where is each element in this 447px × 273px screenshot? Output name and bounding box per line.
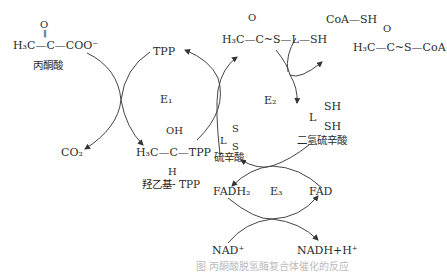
lipoamide-label: 硫辛酸: [214, 152, 244, 163]
acetyl-coa-structure: H₃C—C~S—CoA: [353, 42, 446, 53]
hydroxyethyl-tpp-label: 羟乙基- TPP: [142, 179, 200, 190]
nadh-label: NADH+H⁺: [297, 245, 358, 256]
pyruvate-structure: H₃C—C—COO⁻: [13, 40, 98, 51]
fadh2-label: FADH₂: [213, 186, 250, 197]
arrow-tpp-in: [121, 52, 150, 100]
arrow-pyruvate-to-co2: [85, 53, 121, 149]
fad-label: FAD: [309, 186, 332, 197]
hydroxyethyl-tpp-structure: H₃C—C—TPP: [136, 147, 211, 158]
arrow-to-acetyl-coa: [276, 50, 322, 76]
dihydrolipoamide-sh1: SH: [324, 101, 341, 112]
hydroxyethyl-h: H: [168, 167, 177, 177]
dihydrolipoamide-sh2: SH: [324, 121, 341, 132]
enzyme-e3: E₃: [270, 186, 282, 197]
acetyl-lipoamide-structure: H₃C—C~S—L—SH: [222, 34, 327, 45]
arrow-to-dihydrolipoamide: [290, 75, 297, 103]
arrow-to-lipoamide: [241, 145, 309, 167]
hydroxyethyl-oh: OH: [166, 126, 183, 136]
pyruvate-label: 丙酮酸: [33, 60, 63, 71]
arrow-fadh2-to-fad: [228, 196, 318, 219]
double-bond: ‖: [43, 30, 47, 38]
enzyme-e1: E₁: [160, 94, 172, 105]
nad-label: NAD⁺: [212, 245, 244, 256]
acetyl-coa-oxygen: O: [383, 24, 391, 34]
coa-sh-label: CoA—SH: [326, 14, 377, 25]
acetyl-lipoamide-oxygen: O: [248, 13, 256, 23]
tpp-label: TPP: [153, 46, 175, 57]
lipoamide-l: L: [220, 136, 227, 146]
dihydrolipoamide-label: 二氢硫辛酸: [297, 135, 347, 146]
co2-label: CO₂: [61, 147, 83, 158]
arrow-to-hydroxyethyl-tpp: [121, 100, 143, 145]
enzyme-e2: E₂: [264, 95, 276, 106]
arrow-to-tpp: [185, 50, 220, 140]
dihydrolipoamide-l: L: [309, 112, 316, 123]
figure-caption: 图 丙酮酸脱氢酶复合体催化的反应: [196, 258, 349, 273]
arrow-nad-to-nadh: [228, 219, 318, 243]
lipoamide-s1: S: [232, 124, 239, 134]
